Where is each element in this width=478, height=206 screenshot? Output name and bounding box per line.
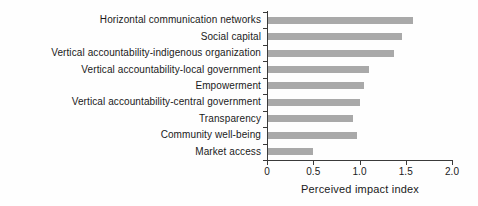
bar bbox=[267, 50, 394, 57]
category-label: Community well-being bbox=[0, 130, 267, 140]
bar-track bbox=[267, 12, 452, 28]
chart-row: Horizontal communication networks bbox=[0, 12, 452, 28]
x-axis-title: Perceived impact index bbox=[267, 183, 453, 195]
y-axis-tick bbox=[263, 78, 267, 79]
chart-row: Market access bbox=[0, 144, 452, 160]
x-axis-tick bbox=[406, 161, 407, 165]
bar bbox=[267, 33, 402, 40]
chart-rows: Horizontal communication networksSocial … bbox=[0, 12, 452, 160]
bar bbox=[267, 17, 413, 24]
bar bbox=[267, 132, 357, 139]
chart-row: Empowerment bbox=[0, 78, 452, 94]
bar-track bbox=[267, 111, 452, 127]
category-label: Vertical accountability-indigenous organ… bbox=[0, 48, 267, 58]
chart-row: Community well-being bbox=[0, 127, 452, 143]
x-axis-tick-label: 0.5 bbox=[306, 166, 320, 177]
y-axis-tick bbox=[263, 127, 267, 128]
y-axis-tick bbox=[263, 144, 267, 145]
x-axis-tick-label: 1.5 bbox=[399, 166, 413, 177]
x-axis-tick-label: 0 bbox=[264, 166, 270, 177]
bar bbox=[267, 82, 364, 89]
bar-track bbox=[267, 127, 452, 143]
bar-track bbox=[267, 28, 452, 44]
y-axis-tick bbox=[263, 94, 267, 95]
category-label: Vertical accountability-local government bbox=[0, 65, 267, 75]
x-axis-tick bbox=[452, 161, 453, 165]
y-axis-tick bbox=[263, 61, 267, 62]
bar-track bbox=[267, 61, 452, 77]
category-label: Market access bbox=[0, 147, 267, 157]
bar bbox=[267, 66, 369, 73]
y-axis-tick bbox=[263, 28, 267, 29]
y-axis-tick bbox=[263, 45, 267, 46]
category-label: Transparency bbox=[0, 114, 267, 124]
category-label: Social capital bbox=[0, 32, 267, 42]
chart-row: Transparency bbox=[0, 111, 452, 127]
bar bbox=[267, 115, 353, 122]
chart-row: Vertical accountability-indigenous organ… bbox=[0, 45, 452, 61]
category-label: Empowerment bbox=[0, 81, 267, 91]
category-label: Horizontal communication networks bbox=[0, 15, 267, 25]
y-axis-line bbox=[267, 11, 268, 161]
chart-row: Vertical accountability-local government bbox=[0, 61, 452, 77]
x-axis-tick bbox=[313, 161, 314, 165]
chart-row: Vertical accountability-central governme… bbox=[0, 94, 452, 110]
y-axis-tick bbox=[263, 111, 267, 112]
bar-track bbox=[267, 78, 452, 94]
x-axis-tick-label: 2.0 bbox=[445, 166, 459, 177]
x-axis-tick bbox=[267, 161, 268, 165]
x-axis-tick-label: 1.0 bbox=[353, 166, 367, 177]
bar-track bbox=[267, 45, 452, 61]
bar-track bbox=[267, 94, 452, 110]
bar bbox=[267, 148, 313, 155]
chart-row: Social capital bbox=[0, 28, 452, 44]
bar bbox=[267, 99, 360, 106]
bar-chart-figure: Horizontal communication networksSocial … bbox=[0, 0, 478, 206]
x-axis-tick bbox=[360, 161, 361, 165]
bar-track bbox=[267, 144, 452, 160]
category-label: Vertical accountability-central governme… bbox=[0, 97, 267, 107]
y-axis-tick bbox=[263, 12, 267, 13]
